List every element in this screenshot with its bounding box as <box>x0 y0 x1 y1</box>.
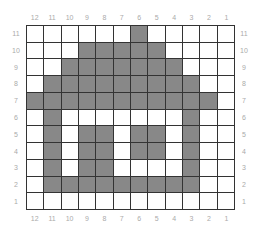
column-label: 11 <box>43 215 60 222</box>
column-label: 12 <box>26 215 43 222</box>
grid-cell-r11-c5 <box>148 26 164 42</box>
grid-cell-r3-c10 <box>62 160 78 176</box>
grid-cell-r2-c10 <box>62 177 78 193</box>
grid-cell-r4-c1 <box>218 143 234 159</box>
row-label: 9 <box>238 59 250 76</box>
grid-cell-r3-c5 <box>148 160 164 176</box>
grid-cell-r10-c1 <box>218 43 234 59</box>
grid-cell-r1-c6 <box>131 193 147 209</box>
column-label: 5 <box>148 215 165 222</box>
grid-cell-r4-c4 <box>166 143 182 159</box>
grid-cell-r5-c5 <box>148 126 164 142</box>
column-label: 11 <box>43 14 60 21</box>
grid-cell-r1-c12 <box>27 193 43 209</box>
grid-cell-r6-c4 <box>166 110 182 126</box>
grid-cell-r7-c11 <box>44 93 60 109</box>
grid-cell-r4-c5 <box>148 143 164 159</box>
row-label: 6 <box>238 109 250 126</box>
column-label: 6 <box>131 215 148 222</box>
grid-cell-r1-c7 <box>114 193 130 209</box>
grid-cell-r9-c8 <box>96 59 112 75</box>
grid-cell-r3-c12 <box>27 160 43 176</box>
grid-cell-r4-c8 <box>96 143 112 159</box>
grid-cell-r11-c9 <box>79 26 95 42</box>
grid-cell-r10-c8 <box>96 43 112 59</box>
grid-cell-r8-c7 <box>114 76 130 92</box>
column-label: 3 <box>183 14 200 21</box>
grid-cell-r9-c1 <box>218 59 234 75</box>
grid-cell-r5-c6 <box>131 126 147 142</box>
grid-cell-r11-c11 <box>44 26 60 42</box>
grid-cell-r1-c9 <box>79 193 95 209</box>
grid-cell-r8-c1 <box>218 76 234 92</box>
column-label: 1 <box>218 14 235 21</box>
grid-cell-r11-c12 <box>27 26 43 42</box>
grid-cell-r3-c6 <box>131 160 147 176</box>
grid-cell-r1-c5 <box>148 193 164 209</box>
grid-cell-r6-c7 <box>114 110 130 126</box>
grid-cell-r1-c10 <box>62 193 78 209</box>
column-label: 2 <box>200 215 217 222</box>
grid-cell-r10-c6 <box>131 43 147 59</box>
row-label: 7 <box>238 92 250 109</box>
grid-cell-r2-c7 <box>114 177 130 193</box>
column-label: 8 <box>96 14 113 21</box>
column-labels-top: 121110987654321 <box>26 14 235 21</box>
grid-cell-r3-c2 <box>200 160 216 176</box>
grid-cell-r10-c3 <box>183 43 199 59</box>
grid-cell-r9-c10 <box>62 59 78 75</box>
column-label: 2 <box>200 14 217 21</box>
grid-cell-r8-c12 <box>27 76 43 92</box>
grid-cell-r4-c7 <box>114 143 130 159</box>
row-label: 1 <box>238 193 250 210</box>
column-label: 7 <box>113 14 130 21</box>
column-label: 1 <box>218 215 235 222</box>
grid-cell-r6-c10 <box>62 110 78 126</box>
grid-cell-r5-c1 <box>218 126 234 142</box>
column-label: 10 <box>61 215 78 222</box>
grid-cell-r11-c4 <box>166 26 182 42</box>
grid-cell-r8-c8 <box>96 76 112 92</box>
grid-cell-r8-c6 <box>131 76 147 92</box>
grid-cell-r9-c11 <box>44 59 60 75</box>
grid-cell-r9-c7 <box>114 59 130 75</box>
grid-cell-r6-c3 <box>183 110 199 126</box>
grid-cell-r7-c2 <box>200 93 216 109</box>
grid-cell-r6-c1 <box>218 110 234 126</box>
grid-cell-r8-c3 <box>183 76 199 92</box>
grid-cell-r9-c12 <box>27 59 43 75</box>
grid-cell-r9-c3 <box>183 59 199 75</box>
row-labels-right: 1110987654321 <box>238 25 250 210</box>
row-label: 6 <box>10 109 22 126</box>
grid-cell-r7-c1 <box>218 93 234 109</box>
column-label: 4 <box>165 215 182 222</box>
grid-cell-r10-c12 <box>27 43 43 59</box>
grid-cell-r3-c4 <box>166 160 182 176</box>
grid-cell-r2-c8 <box>96 177 112 193</box>
column-label: 8 <box>96 215 113 222</box>
grid-cell-r7-c8 <box>96 93 112 109</box>
grid-cell-r2-c6 <box>131 177 147 193</box>
grid-cell-r7-c7 <box>114 93 130 109</box>
grid-cell-r6-c9 <box>79 110 95 126</box>
grid-cell-r5-c9 <box>79 126 95 142</box>
grid-cell-r11-c10 <box>62 26 78 42</box>
grid-cell-r6-c6 <box>131 110 147 126</box>
grid-cell-r10-c5 <box>148 43 164 59</box>
grid-cell-r3-c9 <box>79 160 95 176</box>
grid-cell-r8-c5 <box>148 76 164 92</box>
grid-cell-r1-c4 <box>166 193 182 209</box>
grid-cell-r2-c4 <box>166 177 182 193</box>
grid-cell-r4-c10 <box>62 143 78 159</box>
row-label: 2 <box>10 176 22 193</box>
grid-cell-r6-c11 <box>44 110 60 126</box>
grid-cell-r8-c2 <box>200 76 216 92</box>
row-label: 4 <box>238 143 250 160</box>
grid-cell-r4-c2 <box>200 143 216 159</box>
column-label: 4 <box>165 14 182 21</box>
grid-cell-r8-c10 <box>62 76 78 92</box>
column-labels-bottom: 121110987654321 <box>26 215 235 222</box>
grid-cell-r7-c3 <box>183 93 199 109</box>
grid-cell-r7-c6 <box>131 93 147 109</box>
grid-cell-r2-c12 <box>27 177 43 193</box>
